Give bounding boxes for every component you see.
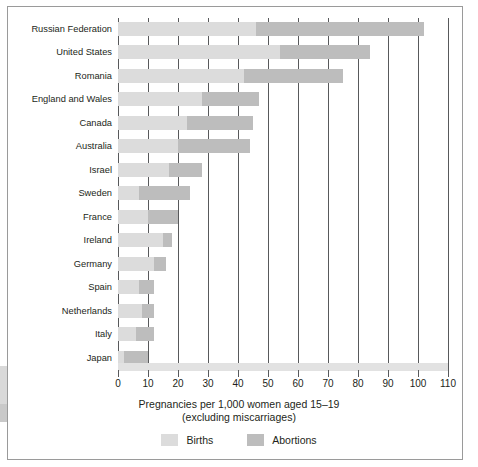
- category-label: Netherlands: [0, 300, 112, 322]
- bar-row: [118, 135, 448, 157]
- bar-segment-abortions: [187, 116, 253, 130]
- x-tick-80: [358, 370, 359, 377]
- x-tick-30: [208, 370, 209, 377]
- x-tick-label: 90: [373, 378, 403, 389]
- bar-row: [118, 18, 448, 40]
- category-label: France: [0, 206, 112, 228]
- x-tick-label: 10: [133, 378, 163, 389]
- legend-item-abortions: Abortions: [247, 434, 316, 446]
- bar-segment-births: [118, 116, 187, 130]
- x-tick-10: [148, 370, 149, 377]
- bar-segment-abortions: [139, 280, 154, 294]
- bar-segment-abortions: [154, 257, 166, 271]
- bar-segment-abortions: [178, 139, 250, 153]
- bar-row: [118, 323, 448, 345]
- category-label: Israel: [0, 159, 112, 181]
- category-label: Australia: [0, 135, 112, 157]
- x-tick-100: [418, 370, 419, 377]
- category-label: United States: [0, 41, 112, 63]
- legend-label-births: Births: [186, 434, 213, 446]
- category-label: Sweden: [0, 182, 112, 204]
- bar-segment-births: [118, 186, 139, 200]
- bar-segment-births: [118, 45, 280, 59]
- bar-segment-abortions: [256, 22, 424, 36]
- x-tick-50: [268, 370, 269, 377]
- bar-segment-abortions: [169, 163, 202, 177]
- bar-row: [118, 65, 448, 87]
- bar-row: [118, 88, 448, 110]
- chart-figure: Russian FederationUnited StatesRomaniaEn…: [0, 0, 478, 467]
- x-tick-label: 50: [253, 378, 283, 389]
- x-tick-label: 110: [433, 378, 463, 389]
- bar-segment-births: [118, 22, 256, 36]
- x-tick-60: [298, 370, 299, 377]
- category-label: Germany: [0, 253, 112, 275]
- x-axis-title-line2: (excluding miscarriages): [0, 411, 478, 424]
- bar-segment-abortions: [163, 233, 172, 247]
- x-tick-label: 40: [223, 378, 253, 389]
- bar-segment-births: [118, 139, 178, 153]
- bar-segment-abortions: [202, 92, 259, 106]
- bar-row: [118, 182, 448, 204]
- category-label: Canada: [0, 112, 112, 134]
- bar-segment-births: [118, 304, 142, 318]
- legend-label-abortions: Abortions: [272, 434, 316, 446]
- x-axis-title-line1: Pregnancies per 1,000 women aged 15–19: [139, 398, 340, 410]
- x-tick-label: 70: [313, 378, 343, 389]
- bar-segment-births: [118, 327, 136, 341]
- category-label: Italy: [0, 323, 112, 345]
- bar-segment-births: [118, 163, 169, 177]
- x-tick-label: 80: [343, 378, 373, 389]
- x-tick-70: [328, 370, 329, 377]
- bar-segment-abortions: [139, 186, 190, 200]
- category-label: Romania: [0, 65, 112, 87]
- bar-segment-abortions: [280, 45, 370, 59]
- x-tick-40: [238, 370, 239, 377]
- legend-item-births: Births: [161, 434, 213, 446]
- x-tick-110: [448, 370, 449, 377]
- x-tick-90: [388, 370, 389, 377]
- x-tick-20: [178, 370, 179, 377]
- bar-segment-abortions: [244, 69, 343, 83]
- x-tick-label: 0: [103, 378, 133, 389]
- chart-legend: Births Abortions: [0, 431, 478, 449]
- bar-segment-abortions: [148, 210, 178, 224]
- bar-segment-births: [118, 92, 202, 106]
- category-label: Spain: [0, 276, 112, 298]
- category-label: England and Wales: [0, 88, 112, 110]
- bar-row: [118, 300, 448, 322]
- x-tick-0: [118, 370, 119, 377]
- bar-row: [118, 112, 448, 134]
- bar-row: [118, 41, 448, 63]
- legend-swatch-births-icon: [161, 434, 178, 446]
- bar-row: [118, 229, 448, 251]
- x-tick-label: 100: [403, 378, 433, 389]
- bar-row: [118, 276, 448, 298]
- bar-segment-births: [118, 257, 154, 271]
- category-label: Ireland: [0, 229, 112, 251]
- category-label: Russian Federation: [0, 18, 112, 40]
- legend-swatch-abortions-icon: [247, 434, 264, 446]
- bar-segment-births: [118, 210, 148, 224]
- category-label: Japan: [0, 347, 112, 369]
- bar-segment-births: [118, 280, 139, 294]
- gridline-110: [448, 18, 449, 370]
- bar-segment-abortions: [136, 327, 154, 341]
- x-tick-label: 20: [163, 378, 193, 389]
- bar-row: [118, 206, 448, 228]
- x-axis-tick-labels: 0102030405060708090100110: [0, 378, 478, 392]
- x-tick-label: 60: [283, 378, 313, 389]
- x-axis-title: Pregnancies per 1,000 women aged 15–19 (…: [0, 398, 478, 424]
- bar-segment-births: [118, 233, 163, 247]
- category-axis-labels: Russian FederationUnited StatesRomaniaEn…: [0, 18, 112, 370]
- x-tick-label: 30: [193, 378, 223, 389]
- bar-segment-births: [118, 69, 244, 83]
- bar-segment-abortions: [142, 304, 154, 318]
- plot-area: [118, 18, 448, 370]
- bar-row: [118, 159, 448, 181]
- bar-row: [118, 253, 448, 275]
